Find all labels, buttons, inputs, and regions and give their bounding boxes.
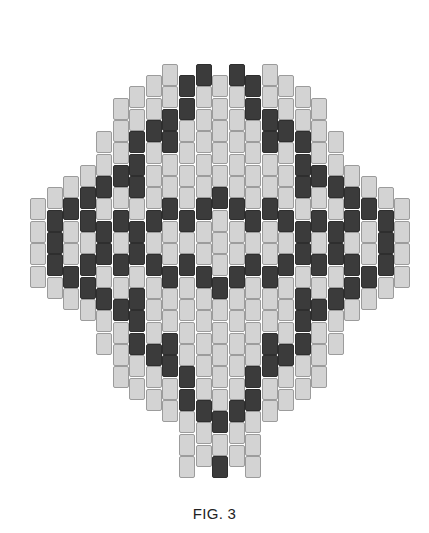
dark-bead	[295, 176, 311, 198]
light-bead	[262, 86, 278, 108]
dark-bead	[278, 120, 294, 142]
light-bead	[262, 288, 278, 310]
dark-bead	[229, 198, 245, 220]
light-bead	[162, 154, 178, 176]
light-bead	[278, 187, 294, 209]
dark-bead	[262, 355, 278, 377]
light-bead	[245, 277, 261, 299]
light-bead	[262, 243, 278, 265]
light-bead	[361, 288, 377, 310]
dark-bead	[129, 221, 145, 243]
light-bead	[295, 198, 311, 220]
light-bead	[229, 221, 245, 243]
dark-bead	[295, 243, 311, 265]
light-bead	[196, 445, 212, 467]
light-bead	[278, 75, 294, 97]
light-bead	[129, 109, 145, 131]
light-bead	[96, 333, 112, 355]
dark-bead	[47, 232, 63, 254]
light-bead	[344, 232, 360, 254]
light-bead	[278, 389, 294, 411]
dark-bead	[361, 198, 377, 220]
light-bead	[146, 187, 162, 209]
dark-bead	[196, 400, 212, 422]
light-bead	[162, 288, 178, 310]
light-bead	[47, 277, 63, 299]
dark-bead	[196, 266, 212, 288]
dark-bead	[295, 310, 311, 332]
dark-bead	[212, 277, 228, 299]
light-bead	[229, 176, 245, 198]
light-bead	[295, 109, 311, 131]
dark-bead	[129, 243, 145, 265]
dark-bead	[80, 187, 96, 209]
dark-bead	[344, 277, 360, 299]
light-bead	[96, 198, 112, 220]
light-bead	[245, 456, 261, 478]
light-bead	[361, 221, 377, 243]
light-bead	[196, 288, 212, 310]
light-bead	[229, 378, 245, 400]
dark-bead	[245, 98, 261, 120]
light-bead	[113, 366, 129, 388]
light-bead	[179, 165, 195, 187]
light-bead	[311, 366, 327, 388]
light-bead	[196, 221, 212, 243]
dark-bead	[162, 266, 178, 288]
light-bead	[328, 310, 344, 332]
light-bead	[311, 277, 327, 299]
dark-bead	[262, 131, 278, 153]
dark-bead	[245, 210, 261, 232]
light-bead	[146, 232, 162, 254]
dark-bead	[212, 456, 228, 478]
light-bead	[162, 400, 178, 422]
light-bead	[146, 142, 162, 164]
light-bead	[262, 64, 278, 86]
light-bead	[278, 98, 294, 120]
light-bead	[245, 232, 261, 254]
dark-bead	[146, 210, 162, 232]
dark-bead	[278, 210, 294, 232]
light-bead	[196, 378, 212, 400]
dark-bead	[196, 198, 212, 220]
dark-bead	[378, 254, 394, 276]
dark-bead	[113, 165, 129, 187]
light-bead	[113, 120, 129, 142]
dark-bead	[245, 75, 261, 97]
light-bead	[262, 221, 278, 243]
light-bead	[328, 154, 344, 176]
light-bead	[196, 154, 212, 176]
light-bead	[212, 120, 228, 142]
light-bead	[179, 120, 195, 142]
light-bead	[245, 165, 261, 187]
light-bead	[344, 299, 360, 321]
light-bead	[212, 366, 228, 388]
light-bead	[30, 243, 46, 265]
light-bead	[229, 154, 245, 176]
light-bead	[129, 355, 145, 377]
light-bead	[129, 266, 145, 288]
light-bead	[328, 131, 344, 153]
dark-bead	[129, 154, 145, 176]
light-bead	[212, 75, 228, 97]
light-bead	[278, 232, 294, 254]
dark-bead	[179, 98, 195, 120]
light-bead	[196, 355, 212, 377]
dark-bead	[328, 243, 344, 265]
light-bead	[245, 411, 261, 433]
dark-bead	[278, 344, 294, 366]
light-bead	[179, 187, 195, 209]
dark-bead	[311, 254, 327, 276]
light-bead	[245, 434, 261, 456]
light-bead	[179, 434, 195, 456]
light-bead	[245, 187, 261, 209]
light-bead	[80, 299, 96, 321]
light-bead	[196, 243, 212, 265]
dark-bead	[146, 120, 162, 142]
dark-bead	[146, 254, 162, 276]
light-bead	[146, 75, 162, 97]
light-bead	[146, 322, 162, 344]
light-bead	[278, 165, 294, 187]
light-bead	[295, 355, 311, 377]
light-bead	[378, 277, 394, 299]
